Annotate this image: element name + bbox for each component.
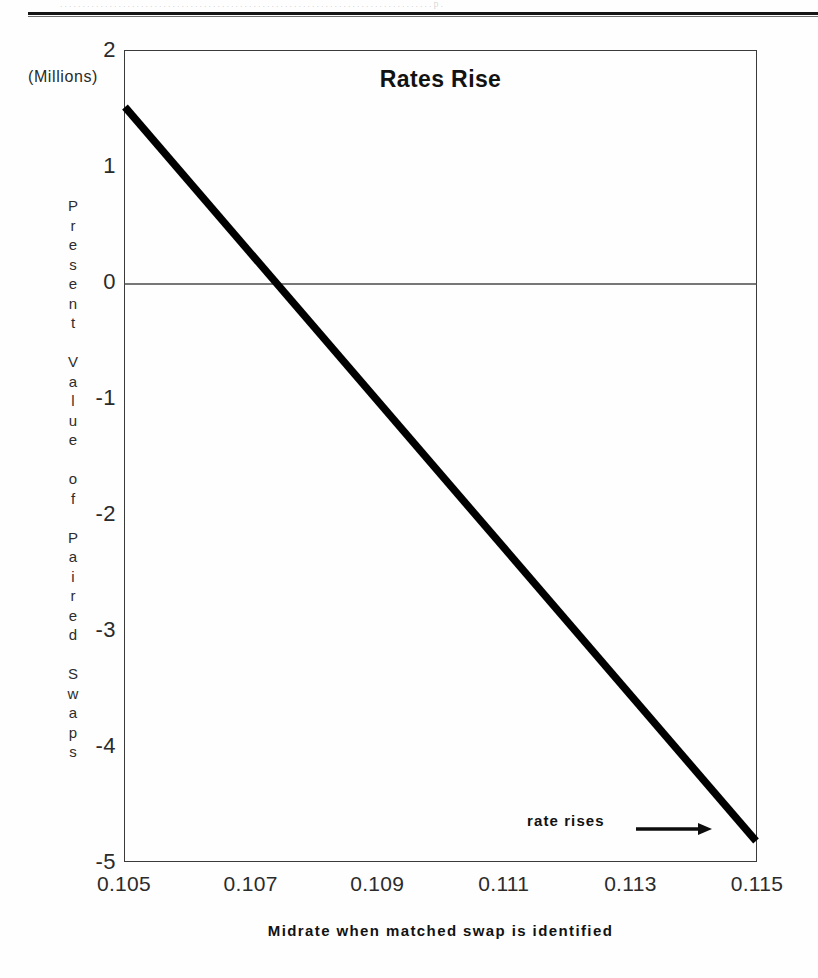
y-tick-label: 1 bbox=[58, 153, 116, 179]
annotation-rate-rises: rate rises bbox=[527, 812, 605, 829]
y-tick-label: 2 bbox=[58, 37, 116, 63]
x-tick-label: 0.105 bbox=[64, 872, 184, 896]
plot-frame bbox=[124, 50, 757, 862]
x-tick-label: 0.113 bbox=[570, 872, 690, 896]
page-canvas: ........................................… bbox=[0, 0, 818, 978]
x-axis-title: Midrate when matched swap is identified bbox=[124, 922, 757, 939]
chart-figure: Rates Rise (Millions) 2 1 0 -1 -2 -3 -4 … bbox=[0, 0, 818, 978]
x-tick-label: 0.115 bbox=[697, 872, 817, 896]
x-tick-label: 0.111 bbox=[444, 872, 564, 896]
y-axis-title: P r e s e n t V a l u e o f P a i r e d … bbox=[60, 196, 86, 762]
x-tick-label: 0.107 bbox=[191, 872, 311, 896]
chart-title: Rates Rise bbox=[124, 66, 757, 93]
x-tick-label: 0.109 bbox=[317, 872, 437, 896]
